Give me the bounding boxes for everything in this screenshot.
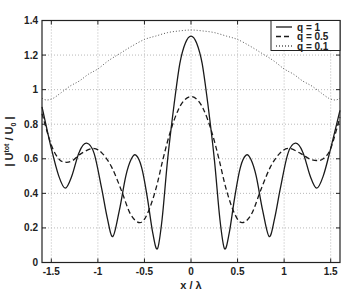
y-axis-label: | Utot / U0 |: [3, 116, 17, 166]
y-tick-label: 1.4: [24, 15, 38, 26]
y-label-mid: / U: [3, 126, 15, 143]
y-tick-label: 1: [32, 84, 38, 95]
y-tick-label: 0: [32, 257, 38, 268]
x-tick-label: -1.5: [43, 266, 61, 277]
x-tick-label: -0.5: [136, 266, 154, 277]
x-tick-label: 0: [188, 266, 194, 277]
y-tick-label: 1.2: [24, 50, 38, 61]
x-tick-label: 1: [281, 266, 287, 277]
x-axis-tick-labels: -1.5-1-0.500.511.5: [43, 266, 338, 277]
y-axis-tick-labels: 00.20.40.60.811.21.4: [24, 15, 38, 268]
y-tick-label: 0.4: [24, 188, 38, 199]
y-label-open: | U: [3, 152, 15, 166]
x-axis-label: x / λ: [180, 279, 201, 291]
x-tick-label: 0.5: [231, 266, 245, 277]
legend-label: q = 0.1: [297, 41, 329, 52]
y-tick-label: 0.8: [24, 119, 38, 130]
line-chart: -1.5-1-0.500.511.5 00.20.40.60.811.21.4 …: [0, 0, 358, 298]
x-tick-label: 1.5: [324, 266, 338, 277]
series-line-solid: [42, 36, 340, 249]
y-tick-label: 0.6: [24, 153, 38, 164]
legend: q = 1q = 0.5q = 0.1: [271, 21, 340, 52]
y-tick-label: 0.2: [24, 222, 38, 233]
grid-lines: [42, 21, 340, 263]
x-tick-label: -1: [93, 266, 102, 277]
y-label-close: |: [3, 116, 15, 122]
